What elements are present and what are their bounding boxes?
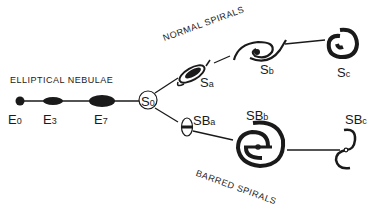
elliptical-nebulae-label: ELLIPTICAL NEBULAE [10,75,113,85]
sbb-label: SBb [246,106,268,124]
e3-label: E3 [43,110,57,128]
e7-label: E7 [94,110,108,128]
e0-galaxy-icon [16,97,25,106]
sa-label: Sa [200,73,214,91]
e0-label: E0 [8,110,22,128]
e7-galaxy-icon [89,95,115,107]
sbc-label: SBc [345,110,367,128]
sba-galaxy-icon [182,118,194,136]
sb-label: Sb [260,60,274,78]
connector-lines [20,40,340,150]
sc-label: Sc [337,63,350,81]
sc-galaxy-icon [329,30,357,57]
e3-galaxy-icon [43,97,63,105]
sb-galaxy-icon [234,40,286,61]
sba-label: SBa [193,111,215,129]
s0-label: S0 [141,92,155,110]
sbc-galaxy-icon [336,130,355,169]
sbb-galaxy-icon [238,123,283,166]
